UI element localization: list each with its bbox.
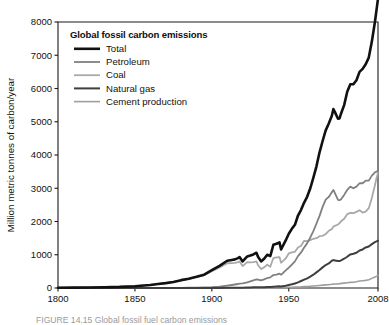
chart-title: Global fossil carbon emissions bbox=[70, 29, 207, 40]
series-line-natural-gas bbox=[58, 241, 378, 288]
x-tick-label: 1800 bbox=[47, 293, 68, 304]
y-tick-label: 4000 bbox=[31, 149, 52, 160]
y-tick-label: 5000 bbox=[31, 116, 52, 127]
figure-caption: FIGURE 14.15 Global fossil fuel carbon e… bbox=[36, 315, 386, 324]
emissions-line-chart: 0100020003000400050006000700080001800185… bbox=[0, 0, 389, 325]
legend-label-cement-production: Cement production bbox=[106, 96, 187, 107]
y-tick-label: 0 bbox=[47, 282, 52, 293]
legend-label-petroleum: Petroleum bbox=[106, 56, 150, 67]
y-axis-label: Million metric tonnes of carbon/year bbox=[5, 77, 16, 232]
legend-label-total: Total bbox=[106, 43, 126, 54]
y-tick-label: 6000 bbox=[31, 83, 52, 94]
figure-container: 0100020003000400050006000700080001800185… bbox=[0, 0, 389, 325]
y-tick-label: 2000 bbox=[31, 216, 52, 227]
y-tick-label: 1000 bbox=[31, 249, 52, 260]
x-tick-label: 2008 bbox=[367, 293, 388, 304]
y-tick-label: 8000 bbox=[31, 16, 52, 27]
legend-label-natural-gas: Natural gas bbox=[106, 83, 155, 94]
x-tick-label: 1900 bbox=[201, 293, 222, 304]
y-tick-label: 7000 bbox=[31, 50, 52, 61]
series-line-coal bbox=[58, 173, 378, 288]
x-tick-label: 1850 bbox=[124, 293, 145, 304]
x-tick-label: 1950 bbox=[278, 293, 299, 304]
legend-label-coal: Coal bbox=[106, 69, 126, 80]
y-tick-label: 3000 bbox=[31, 183, 52, 194]
